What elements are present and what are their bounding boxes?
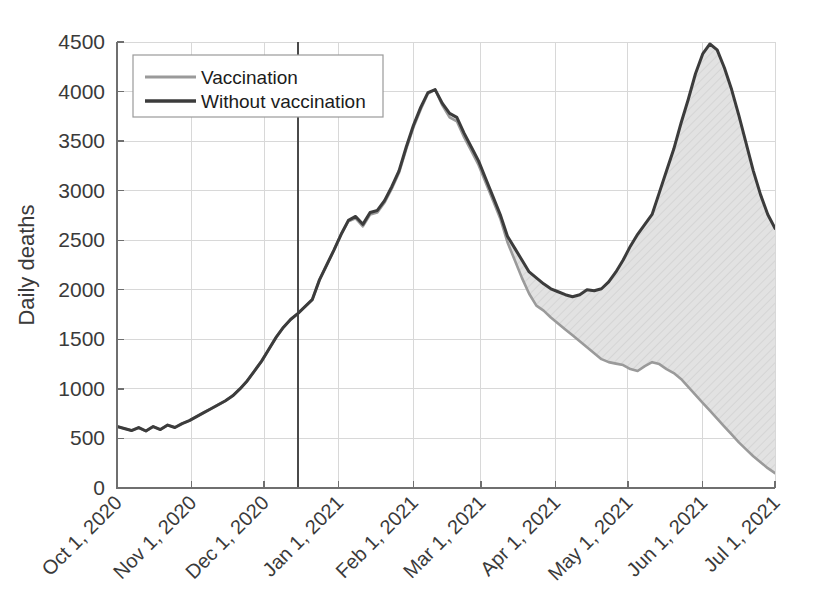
y-tick-label: 500 <box>70 426 105 449</box>
y-tick-label: 1500 <box>58 327 105 350</box>
y-tick-label: 0 <box>93 476 105 499</box>
y-tick-label: 3000 <box>58 179 105 202</box>
y-tick-label: 2500 <box>58 228 105 251</box>
y-tick-label: 4000 <box>58 80 105 103</box>
y-tick-label: 4500 <box>58 30 105 53</box>
legend-label-vaccination: Vaccination <box>201 67 298 88</box>
y-tick-label: 2000 <box>58 278 105 301</box>
y-tick-label: 1000 <box>58 377 105 400</box>
legend-label-without-vaccination: Without vaccination <box>201 91 366 112</box>
y-tick-label: 3500 <box>58 129 105 152</box>
y-axis-label: Daily deaths <box>14 204 39 325</box>
chart-legend: Vaccination Without vaccination <box>133 55 383 117</box>
daily-deaths-line-chart: 050010001500200025003000350040004500 Oct… <box>0 0 816 615</box>
chart-container: 050010001500200025003000350040004500 Oct… <box>0 0 816 615</box>
